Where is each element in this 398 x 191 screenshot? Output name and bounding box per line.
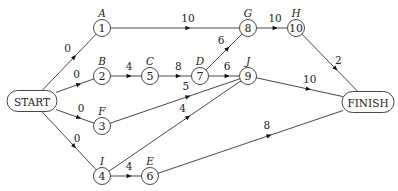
node-number: 7 — [197, 70, 204, 83]
edge-start-to-4: 0 — [41, 111, 96, 170]
node-9: 9J — [240, 55, 257, 85]
node-1: 1A — [94, 7, 111, 37]
arrowhead-icon — [76, 83, 81, 87]
edge-weight-label: 0 — [64, 42, 71, 54]
node-number: 10 — [289, 22, 303, 35]
edge-weight-label: 0 — [74, 132, 81, 144]
edge-weight-label: 10 — [181, 12, 194, 24]
edge-weight-label: 5 — [183, 80, 190, 92]
edge-1-to-8: 10 — [111, 12, 240, 31]
arrowhead-icon — [185, 26, 190, 30]
node-number: 8 — [245, 22, 252, 35]
node-6: 6E — [142, 155, 159, 185]
activity-letter: F — [97, 105, 106, 117]
edge-weight-label: 6 — [224, 60, 231, 72]
node-number: 4 — [99, 170, 106, 183]
edge-weight-label: 10 — [303, 73, 316, 85]
edge-weight-label: 4 — [126, 60, 133, 72]
activity-letter: G — [244, 7, 252, 19]
node-10: 10H — [288, 7, 305, 37]
edge-weight-label: 2 — [335, 54, 342, 66]
edge-4-to-9: 4 — [109, 81, 241, 171]
activity-letter: E — [145, 155, 154, 167]
activity-letter: C — [146, 55, 154, 67]
edge-line — [109, 81, 241, 171]
edge-start-to-3: 0 — [56, 102, 94, 124]
node-7: 7D — [192, 55, 209, 85]
edge-line — [56, 79, 94, 93]
node-8: 8G — [240, 7, 257, 37]
edges-layer: 0000104866544102108 — [41, 12, 358, 179]
edge-weight-label: 0 — [78, 102, 85, 114]
edge-line — [158, 110, 343, 173]
activity-letter: A — [97, 7, 106, 19]
edge-3-to-9: 5 — [110, 79, 240, 123]
edge-2-to-5: 4 — [111, 60, 142, 79]
arrowhead-icon — [185, 95, 190, 99]
edge-weight-label: 8 — [264, 119, 271, 131]
edge-weight-label: 0 — [73, 68, 80, 80]
node-4: 4I — [94, 155, 111, 185]
node-number: 6 — [147, 170, 154, 183]
node-number: 9 — [245, 70, 252, 83]
network-diagram: 0000104866544102108 STARTFINISH1A2B3F4I5… — [0, 0, 398, 191]
node-number: 1 — [99, 22, 106, 35]
edge-6-to-finish: 8 — [158, 110, 343, 173]
edge-8-to-10: 10 — [257, 12, 288, 31]
edge-weight-label: 4 — [126, 160, 133, 172]
arrowhead-icon — [76, 115, 81, 119]
terminal-start: START — [7, 91, 57, 112]
arrowhead-icon — [127, 174, 132, 178]
activity-letter: H — [290, 7, 301, 19]
edge-weight-label: 8 — [175, 60, 182, 72]
edge-weight-label: 10 — [268, 12, 281, 24]
edge-9-to-finish: 10 — [256, 73, 343, 97]
arrowhead-icon — [225, 74, 230, 78]
activity-letter: D — [195, 55, 205, 67]
activity-letter: B — [97, 55, 106, 67]
terminal-label: FINISH — [347, 97, 388, 109]
edge-4-to-6: 4 — [111, 160, 142, 179]
activity-letter: J — [244, 55, 251, 67]
edge-line — [110, 79, 240, 123]
edge-line — [56, 110, 94, 124]
arrowhead-icon — [273, 26, 278, 30]
edge-line — [41, 111, 96, 170]
terminal-label: START — [14, 96, 50, 108]
edge-weight-label: 4 — [179, 102, 186, 114]
edge-weight-label: 6 — [218, 34, 225, 46]
edge-5-to-7: 8 — [159, 60, 192, 79]
terminal-finish: FINISH — [342, 92, 394, 113]
node-number: 2 — [99, 70, 106, 83]
node-number: 3 — [99, 120, 106, 133]
arrowhead-icon — [127, 74, 132, 78]
edge-line — [256, 78, 343, 97]
node-3: 3F — [94, 105, 111, 135]
edge-start-to-2: 0 — [56, 68, 94, 92]
arrowhead-icon — [305, 86, 310, 90]
edge-start-to-1: 0 — [42, 34, 96, 91]
node-5: 5C — [142, 55, 159, 85]
node-2: 2B — [94, 55, 111, 85]
nodes-layer: STARTFINISH1A2B3F4I5C6E7D8G9J10H — [7, 7, 394, 185]
activity-letter: I — [99, 155, 105, 167]
arrowhead-icon — [176, 74, 181, 78]
arrowhead-icon — [266, 134, 271, 138]
node-number: 5 — [147, 70, 154, 83]
arrowhead-icon — [185, 116, 190, 121]
